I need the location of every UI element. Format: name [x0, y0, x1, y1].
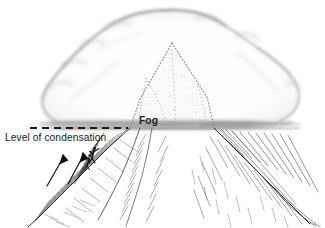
left-spur-b [126, 128, 152, 226]
rising-air-arrow-left [47, 155, 67, 186]
level-of-condensation-label: Level of condensation [5, 132, 106, 143]
mountain-fog-diagram: Level of condensation Fog [0, 0, 325, 228]
illustration-canvas [0, 0, 325, 228]
right-slope [192, 128, 320, 227]
fog-label: Fog [139, 115, 158, 126]
